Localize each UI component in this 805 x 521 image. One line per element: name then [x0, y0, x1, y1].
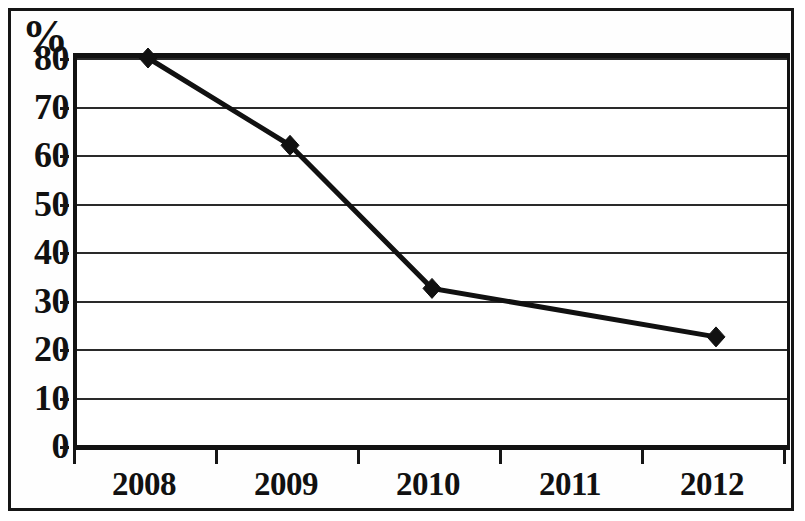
y-tick-mark	[60, 252, 69, 255]
x-tick-label: 2010	[396, 466, 460, 503]
x-tick-label: 2009	[254, 466, 318, 503]
x-tick-label: 2012	[680, 466, 744, 503]
chart-figure: % 01020304050607080 20082009201020112012	[0, 0, 805, 521]
y-tick-mark	[60, 155, 69, 158]
x-tick-label: 2011	[539, 466, 601, 503]
data-point-marker	[707, 327, 725, 347]
x-tick-mark	[641, 450, 644, 464]
x-tick-label: 2008	[112, 466, 176, 503]
y-tick-mark	[60, 398, 69, 401]
y-tick-mark	[60, 349, 69, 352]
x-tick-mark	[783, 450, 786, 464]
y-tick-mark	[60, 301, 69, 304]
x-tick-mark	[499, 450, 502, 464]
x-tick-mark	[73, 450, 76, 464]
y-tick-mark	[60, 204, 69, 207]
x-axis-category-labels: 20082009201020112012	[73, 466, 790, 512]
x-axis-tick-marks	[73, 450, 790, 466]
y-axis-tick-labels: 01020304050607080	[0, 53, 69, 450]
y-tick-mark	[60, 107, 69, 110]
y-tick-mark	[60, 58, 69, 61]
plot-area	[73, 53, 790, 450]
y-tick-mark	[60, 446, 69, 449]
x-tick-mark	[215, 450, 218, 464]
x-tick-mark	[357, 450, 360, 464]
line-series-2008-2012	[77, 58, 787, 446]
